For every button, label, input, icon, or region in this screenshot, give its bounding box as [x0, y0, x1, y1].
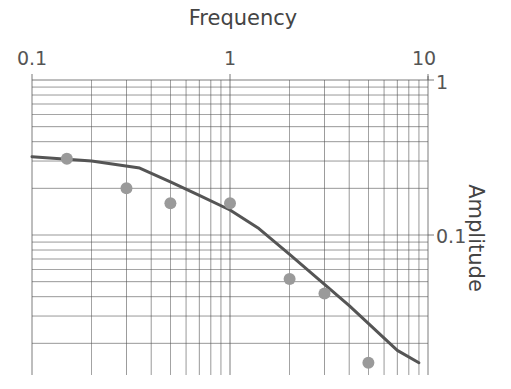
data-point [224, 197, 236, 209]
grid-lines [32, 76, 428, 375]
data-point [61, 153, 73, 165]
data-point [120, 182, 132, 194]
data-point [164, 197, 176, 209]
fit-line [32, 157, 419, 363]
fit-curve [32, 157, 419, 363]
data-point [318, 287, 330, 299]
data-point [284, 273, 296, 285]
data-point [362, 357, 374, 369]
chart-plot-area [0, 0, 511, 389]
data-points [61, 153, 375, 369]
